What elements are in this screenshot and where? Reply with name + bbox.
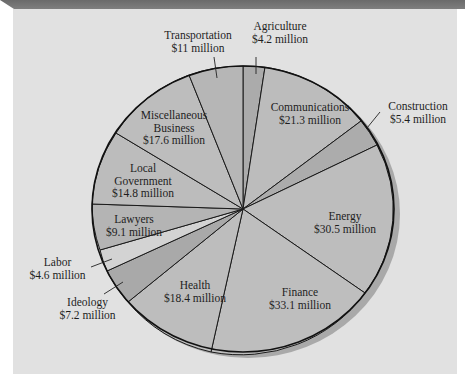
label-construction: Construction $5.4 million bbox=[378, 100, 458, 125]
label-ideology: Ideology $7.2 million bbox=[50, 296, 125, 321]
label-communications: Communications $21.3 million bbox=[260, 101, 360, 126]
label-finance: Finance $33.1 million bbox=[250, 286, 350, 311]
label-labor: Labor $4.6 million bbox=[20, 256, 95, 281]
label-lawyers: Lawyers $9.1 million bbox=[94, 213, 174, 238]
label-health: Health $18.4 million bbox=[150, 279, 240, 304]
label-misc-business: Miscellaneous Business $17.6 million bbox=[124, 109, 224, 147]
label-energy: Energy $30.5 million bbox=[295, 210, 395, 235]
label-local-government: Local Government $14.8 million bbox=[98, 162, 188, 200]
label-agriculture: Agriculture $4.2 million bbox=[245, 20, 315, 45]
label-transportation: Transportation $11 million bbox=[148, 29, 248, 54]
